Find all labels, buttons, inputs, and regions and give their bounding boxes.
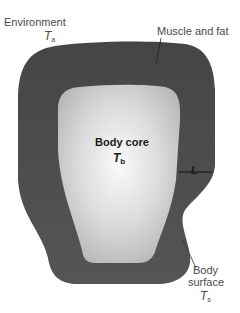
muscle-fat-label: Muscle and fat	[157, 25, 229, 37]
body-surface-label-line1: Body	[193, 264, 218, 276]
environment-temperature-symbol: Ta	[44, 29, 55, 43]
body-core-label: Body core	[95, 136, 149, 148]
body-surface-label-line2: surface	[188, 276, 224, 288]
body-surface-temperature-symbol: Ts	[200, 289, 211, 303]
body-core-temperature-symbol: Tb	[113, 151, 125, 166]
environment-label: Environment	[4, 16, 66, 28]
thickness-symbol: L	[191, 164, 198, 176]
